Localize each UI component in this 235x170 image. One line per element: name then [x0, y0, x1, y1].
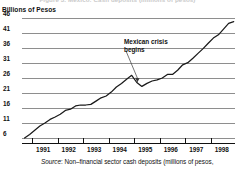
annotation-label-line1: Mexican crisis — [124, 38, 168, 45]
cut-off-figure-title: Figure 3. Mexico: Cash deposits (million… — [0, 0, 235, 4]
x-tick-label: 1997 — [189, 146, 203, 153]
x-tick-label: 1993 — [87, 146, 101, 153]
y-tick-label: 46 — [3, 11, 10, 17]
source-label: Source — [41, 158, 61, 165]
x-tick-mark — [83, 138, 84, 144]
x-tick-label: 1991 — [36, 146, 50, 153]
plot-area — [22, 18, 235, 138]
y-tick-label: 26 — [3, 71, 10, 77]
gridline — [22, 18, 235, 19]
gridline — [22, 108, 235, 109]
y-tick-label: 31 — [3, 56, 10, 62]
x-tick-mark — [160, 138, 161, 144]
gridline — [22, 138, 235, 139]
gridline — [22, 123, 235, 124]
annotation-label-line2: begins — [124, 46, 145, 53]
y-tick-label: 11 — [3, 116, 10, 122]
gridline — [22, 63, 235, 64]
chart-figure: Figure 3. Mexico: Cash deposits (million… — [0, 0, 235, 170]
x-tick-mark — [211, 138, 212, 144]
y-tick-label: 16 — [3, 101, 10, 107]
x-tick-label: 1996 — [164, 146, 178, 153]
y-tick-label: 41 — [3, 26, 10, 32]
gridline — [22, 93, 235, 94]
source-text: : Non–financial sector cash deposits (mi… — [61, 158, 213, 165]
x-tick-label: 1992 — [62, 146, 76, 153]
x-tick-label: 1994 — [113, 146, 127, 153]
x-tick-label: 1995 — [138, 146, 152, 153]
y-tick-label: 36 — [3, 41, 10, 47]
gridline — [22, 33, 235, 34]
y-tick-label: 21 — [3, 86, 10, 92]
y-tick-label: 6 — [3, 131, 7, 137]
gridline — [22, 78, 235, 79]
x-tick-mark — [109, 138, 110, 144]
x-tick-mark — [58, 138, 59, 144]
source-note: Source: Non–financial sector cash deposi… — [41, 158, 213, 165]
x-tick-label: 1998 — [215, 146, 229, 153]
x-tick-mark — [32, 138, 33, 144]
x-tick-mark — [134, 138, 135, 144]
x-tick-mark — [185, 138, 186, 144]
x-axis-line — [22, 143, 235, 144]
